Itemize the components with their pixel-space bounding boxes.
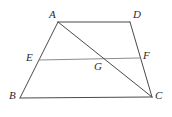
- segment-BC: [20, 97, 152, 98]
- vertex-label-E: E: [26, 52, 33, 63]
- geometry-figure: A D E F G B C: [0, 0, 172, 117]
- segment-EF: [39, 58, 140, 60]
- vertex-label-G: G: [94, 61, 102, 72]
- vertex-label-A: A: [49, 9, 56, 20]
- vertex-label-C: C: [155, 90, 162, 101]
- vertex-label-F: F: [143, 50, 150, 61]
- vertex-label-B: B: [9, 90, 16, 101]
- vertex-label-D: D: [133, 9, 141, 20]
